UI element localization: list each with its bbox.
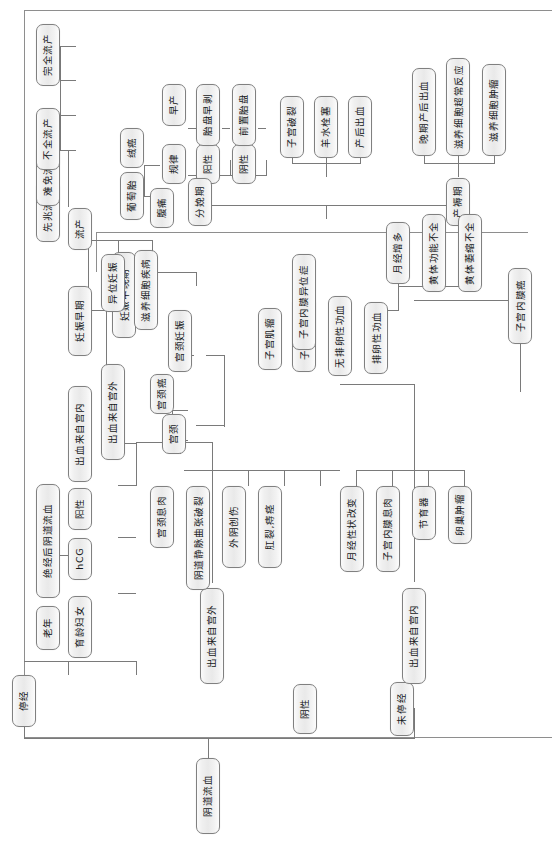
node-label: 未停经 [397,693,407,725]
node-abdominal-pain[interactable]: 腹痛 [150,188,174,228]
node-amniotic-embolism[interactable]: 羊水栓塞 [314,96,338,158]
node-vulvar-trauma[interactable]: 外阴创伤 [222,486,246,568]
node-endometrial-polyp[interactable]: 子宫内膜息肉 [376,486,400,572]
node-label: 月经性状改变 [347,497,357,561]
node-anal-fissure-hemorrhoid[interactable]: 肛裂,痔痉 [258,486,282,568]
node-label: 产后出血 [355,106,365,148]
node-label: 月经增多 [393,232,403,274]
node-placental-abruption[interactable]: 胎盘早剥 [196,84,220,146]
node-label: 无排卵性功血 [335,304,345,368]
node-cervical-pregnancy[interactable]: 宫颈妊娠 [168,310,192,372]
node-label: 子宫内膜息肉 [383,497,393,561]
node-bleed-extrauterine-up[interactable]: 出血来自宫外 [101,364,125,460]
connector [136,661,137,675]
node-trophoblast-abnormal-reaction[interactable]: 滋养细胞超常反应 [446,58,470,156]
node-label: 出血来自宫外 [108,380,118,444]
node-label: 不全流产 [43,118,53,160]
node-delivery-stage[interactable]: 分娩期 [188,178,212,226]
connector [184,470,212,471]
connector [172,410,188,411]
node-regular[interactable]: 规律 [162,144,186,184]
node-endometriosis[interactable]: 子宫内膜异位症 [292,254,316,350]
node-vaginal-varicose-rupture[interactable]: 阴道静脉曲张破裂 [186,486,210,590]
node-preterm-birth[interactable]: 早产 [162,84,186,126]
node-label: 阴道静脉曲张破裂 [193,496,203,581]
node-menstrual-change[interactable]: 月经性状改变 [340,486,364,572]
connector [144,165,145,197]
node-ectopic-pregnancy[interactable]: 异位妊娠 [101,254,125,312]
node-label: 育龄妇女 [75,606,85,648]
node-menorrhagia[interactable]: 月经增多 [386,222,410,284]
node-amenorrhea[interactable]: 停经 [12,675,36,727]
node-label: 绒癌 [127,137,137,158]
node-uterine-rupture[interactable]: 子宫破裂 [280,96,304,158]
node-label: hCG [75,548,85,570]
node-label: 黄体功能不全 [429,221,439,285]
node-cervical-polyp[interactable]: 宫颈息肉 [150,486,174,548]
connector [68,150,69,194]
node-early-pregnancy[interactable]: 妊娠早期 [68,286,92,356]
node-late-postpartum-hemorrhage[interactable]: 晚期产后出血 [412,68,436,156]
connector [60,46,61,151]
node-label: 分娩期 [195,186,205,218]
node-label: 子宫肌瘤 [265,318,275,360]
node-label: 异位妊娠 [108,262,118,304]
node-iud[interactable]: 节育器 [412,486,436,540]
node-choriocarcinoma[interactable]: 绒癌 [120,128,144,168]
connector [258,128,266,129]
node-elderly[interactable]: 老年 [36,606,60,650]
node-label: 流产 [75,218,85,239]
node-label: 葡萄胎 [127,180,137,212]
node-negative[interactable]: 阴性 [293,684,317,734]
node-positive-left[interactable]: 阳性 [68,488,92,530]
node-cervical-cancer[interactable]: 宫颈癌 [150,374,174,414]
node-postpartum-hemorrhage[interactable]: 产后出血 [348,96,372,158]
node-postmenopausal-bleeding[interactable]: 绝经后阴道流血 [36,484,60,598]
connector [118,593,136,594]
node-luteal-atrophy-incomplete[interactable]: 黄体萎缩不全 [458,214,482,292]
node-label: 阴性 [300,698,310,719]
connector [188,128,196,129]
node-childbearing-women[interactable]: 育龄妇女 [68,596,92,658]
node-placenta-previa[interactable]: 前置胎盘 [232,84,256,146]
node-trophoblastic-tumor[interactable]: 滋养细胞肿瘤 [482,64,506,156]
node-label: 腹痛 [157,197,167,218]
node-endometrial-cancer[interactable]: 子宫内膜癌 [508,268,532,344]
node-cervix[interactable]: 宫颈 [162,414,186,454]
node-ovulatory-dub[interactable]: 排卵性功血 [364,302,388,374]
connector [464,470,465,486]
connector [136,442,137,486]
node-anovulatory-dub[interactable]: 无排卵性功血 [328,296,352,376]
node-negative-a[interactable]: 阴性 [232,144,256,184]
node-label: 羊水栓塞 [321,106,331,148]
node-bleed-intrauterine-up[interactable]: 出血来自宫内 [68,386,92,482]
node-no-amenorrhea[interactable]: 未停经 [390,682,414,736]
node-trophoblastic-disease[interactable]: 滋养细胞疾病 [134,250,158,330]
connector [320,470,321,486]
node-label: 早产 [169,94,179,115]
node-bleed-intrauterine-low[interactable]: 出血来自宫内 [402,588,426,684]
node-bleed-extrauterine-low[interactable]: 出血来自宫外 [200,588,224,684]
connector [414,470,464,471]
node-root[interactable]: 阴道流血 [196,758,220,834]
connector [414,300,520,301]
connector [196,272,197,286]
connector [68,661,69,675]
node-luteal-insufficiency[interactable]: 黄体功能不全 [422,214,446,292]
node-complete-abortion[interactable]: 完全流产 [36,24,60,86]
connector [196,205,326,206]
node-incomplete-abortion[interactable]: 不全流产 [36,108,60,170]
node-uterine-myoma[interactable]: 子宫肌瘤 [258,308,282,370]
node-abortion[interactable]: 流产 [68,208,92,250]
node-hcg[interactable]: hCG [68,538,92,580]
connector [428,470,429,486]
node-hydatidiform-mole[interactable]: 葡萄胎 [120,172,144,220]
node-ovarian-tumor[interactable]: 卵巢肿瘤 [448,486,472,544]
node-label: 妊娠早期 [75,300,85,342]
connector [414,708,415,739]
node-label: 阳性 [203,153,213,174]
connector [208,738,209,758]
node-label: 出血来自宫外 [207,604,217,668]
node-label: 产褥期 [453,186,463,218]
connector [398,286,399,311]
